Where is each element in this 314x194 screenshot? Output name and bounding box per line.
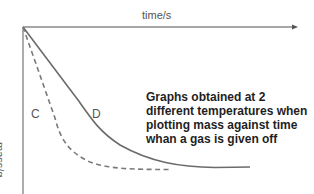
y-axis-label: mass/g (0, 142, 6, 177)
series-d-label: D (92, 107, 101, 121)
x-axis-label: time/s (142, 9, 171, 21)
x-axis-arrow-icon (292, 25, 298, 30)
chart-annotation: Graphs obtained at 2 different temperatu… (146, 90, 314, 146)
series-c-label: C (31, 107, 40, 121)
